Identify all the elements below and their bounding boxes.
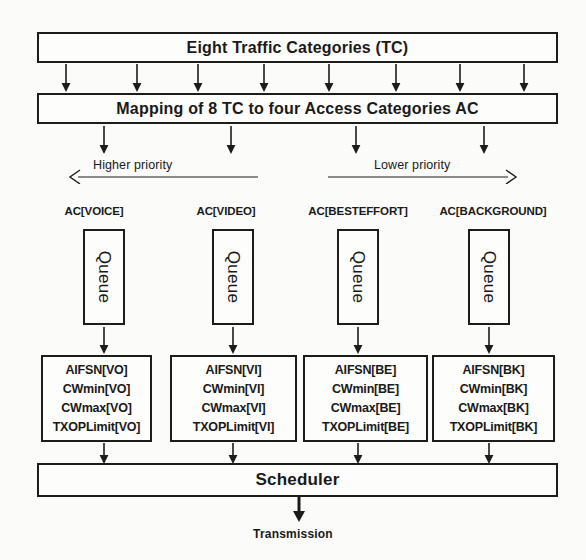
queue-to-param-arrow-video [227, 327, 239, 354]
mapping-to-ac-arrow-3 [350, 126, 362, 154]
ac-label-besteffort: AC[BESTEFFORT] [300, 205, 416, 217]
param-txoplimit-vo: TXOPLimit[VO] [53, 418, 141, 437]
scheduler-box: Scheduler [37, 463, 558, 497]
param-aifsn-vi: AIFSN[VI] [206, 361, 262, 380]
ac-label-voice: AC[VOICE] [36, 205, 152, 217]
mapping-box: Mapping of 8 TC to four Access Categorie… [37, 93, 558, 124]
traffic-categories-box: Eight Traffic Categories (TC) [37, 32, 558, 63]
tc-to-mapping-arrow-5 [323, 64, 335, 92]
queue-label-besteffort: Queue [348, 251, 368, 304]
param-to-scheduler-arrow-voice [98, 443, 110, 464]
param-cwmin-be: CWmin[BE] [332, 380, 399, 399]
mapping-label: Mapping of 8 TC to four Access Categorie… [116, 100, 478, 118]
param-cwmin-bk: CWmin[BK] [460, 380, 528, 399]
queue-to-param-arrow-voice [98, 327, 110, 354]
queue-box-besteffort: Queue [337, 229, 379, 325]
queue-label-background: Queue [479, 251, 499, 304]
edca-architecture-diagram: Eight Traffic Categories (TC) [0, 0, 586, 560]
traffic-categories-label: Eight Traffic Categories (TC) [187, 39, 409, 57]
tc-to-mapping-arrow-4 [258, 64, 270, 92]
lower-priority-arrow [328, 168, 518, 184]
param-txoplimit-bk: TXOPLimit[BK] [450, 418, 538, 437]
queue-box-voice: Queue [83, 229, 125, 325]
scheduler-label: Scheduler [256, 470, 340, 490]
param-cwmax-vi: CWmax[VI] [201, 399, 265, 418]
queue-to-param-arrow-besteffort [352, 327, 364, 354]
param-cwmax-be: CWmax[BE] [331, 399, 401, 418]
param-cwmin-vi: CWmin[VI] [203, 380, 264, 399]
param-cwmax-bk: CWmax[BK] [458, 399, 528, 418]
param-cwmax-vo: CWmax[VO] [61, 399, 131, 418]
transmission-arrow [292, 497, 306, 522]
tc-to-mapping-arrow-1 [60, 64, 72, 92]
param-aifsn-vo: AIFSN[VO] [65, 361, 127, 380]
tc-to-mapping-arrow-3 [192, 64, 204, 92]
param-aifsn-be: AIFSN[BE] [335, 361, 396, 380]
tc-to-mapping-arrow-8 [518, 64, 530, 92]
ac-label-video: AC[VIDEO] [168, 205, 284, 217]
queue-label-voice: Queue [94, 251, 114, 304]
param-to-scheduler-arrow-background [483, 443, 495, 464]
param-box-background: AIFSN[BK] CWmin[BK] CWmax[BK] TXOPLimit[… [432, 355, 555, 442]
tc-to-mapping-arrow-2 [131, 64, 143, 92]
higher-priority-arrow [68, 168, 258, 184]
param-txoplimit-vi: TXOPLimit[VI] [193, 418, 274, 437]
mapping-to-ac-arrow-1 [98, 126, 110, 154]
mapping-to-ac-arrow-4 [478, 126, 490, 154]
ac-label-background: AC[BACKGROUND] [430, 205, 556, 217]
param-to-scheduler-arrow-besteffort [352, 443, 364, 464]
param-box-video: AIFSN[VI] CWmin[VI] CWmax[VI] TXOPLimit[… [170, 355, 297, 442]
param-txoplimit-be: TXOPLimit[BE] [322, 418, 409, 437]
queue-to-param-arrow-background [483, 327, 495, 354]
tc-to-mapping-arrow-7 [454, 64, 466, 92]
param-to-scheduler-arrow-video [227, 443, 239, 464]
queue-box-video: Queue [212, 229, 254, 325]
param-cwmin-vo: CWmin[VO] [63, 380, 131, 399]
param-box-besteffort: AIFSN[BE] CWmin[BE] CWmax[BE] TXOPLimit[… [303, 355, 428, 442]
queue-box-background: Queue [468, 229, 510, 325]
param-aifsn-bk: AIFSN[BK] [462, 361, 524, 380]
queue-label-video: Queue [223, 251, 243, 304]
param-box-voice: AIFSN[VO] CWmin[VO] CWmax[VO] TXOPLimit[… [41, 355, 152, 442]
transmission-label: Transmission [0, 527, 586, 541]
mapping-to-ac-arrow-2 [225, 126, 237, 154]
tc-to-mapping-arrow-6 [390, 64, 402, 92]
